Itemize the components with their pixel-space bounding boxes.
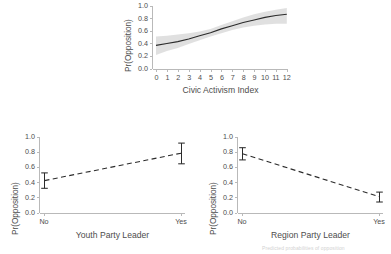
x-axis-title-civic: Civic Activism Index (153, 85, 288, 95)
y-axis-tick (37, 152, 40, 153)
x-axis-tick (276, 69, 277, 72)
y-axis-tick (37, 137, 40, 138)
y-tick-label: 1.0 (132, 2, 148, 10)
x-axis-tick (178, 69, 179, 72)
x-axis-tick (254, 69, 255, 72)
x-tick-label-no: No (33, 218, 55, 226)
y-tick-label: 0.4 (217, 179, 233, 187)
y-axis-tick (150, 69, 153, 70)
y-tick-label: 0.4 (19, 179, 35, 187)
trend-line (45, 153, 182, 181)
x-axis-line (40, 213, 185, 214)
x-axis-tick (232, 69, 233, 72)
y-tick-label: 0.0 (19, 209, 35, 217)
y-tick-label: 0.2 (132, 52, 148, 60)
y-tick-label: 1.0 (217, 133, 233, 141)
x-axis-title-youth: Youth Party Leader (40, 230, 185, 240)
figure-caption: Predicted probabilities of opposition (262, 245, 345, 251)
y-tick-label: 0.6 (19, 163, 35, 171)
x-tick-label-yes: Yes (170, 218, 192, 226)
y-axis-tick (150, 18, 153, 19)
civic-activism-plot (153, 6, 288, 70)
figure-panel-group: Pr(Opposition) 1.0 0.8 0.6 0.4 0.2 0.0 0 (0, 0, 391, 254)
y-axis-tick (235, 137, 238, 138)
y-tick-label: 0.2 (217, 194, 233, 202)
y-axis-tick (235, 197, 238, 198)
y-axis-tick (37, 197, 40, 198)
y-tick-label: 0.8 (132, 15, 148, 23)
x-tick-label-yes: Yes (368, 218, 390, 226)
x-tick-label: 12 (280, 74, 293, 82)
x-axis-tick (181, 213, 182, 216)
x-axis-line (238, 213, 383, 214)
error-bar-yes (376, 192, 383, 202)
region-party-leader-plot (238, 137, 383, 214)
confidence-band (156, 7, 287, 54)
x-axis-tick (167, 69, 168, 72)
x-axis-tick (200, 69, 201, 72)
chart-region-party-leader: Pr(Opposition) 1.0 0.8 0.6 0.4 0.2 0.0 N… (196, 128, 391, 254)
x-axis-tick (287, 69, 288, 72)
x-tick-label-no: No (231, 218, 253, 226)
y-tick-label: 1.0 (19, 133, 35, 141)
y-tick-label: 0.6 (132, 27, 148, 35)
y-tick-label: 0.0 (132, 65, 148, 73)
x-axis-tick (242, 213, 243, 216)
y-tick-label: 0.8 (217, 148, 233, 156)
x-axis-title-region: Region Party Leader (238, 230, 383, 240)
y-axis-tick (235, 213, 238, 214)
y-axis-tick (37, 182, 40, 183)
trend-line (243, 153, 380, 196)
x-axis-tick (243, 69, 244, 72)
y-axis-tick (150, 56, 153, 57)
y-tick-label: 0.6 (217, 163, 233, 171)
x-axis-tick (211, 69, 212, 72)
y-axis-tick (37, 213, 40, 214)
x-axis-tick (221, 69, 222, 72)
y-axis-tick (150, 31, 153, 32)
y-tick-label: 0.4 (132, 40, 148, 48)
y-axis-tick (37, 167, 40, 168)
x-axis-tick (265, 69, 266, 72)
x-axis-tick (156, 69, 157, 72)
y-tick-label: 0.2 (19, 194, 35, 202)
x-axis-tick (379, 213, 380, 216)
y-tick-label: 0.0 (217, 209, 233, 217)
chart-youth-party-leader: Pr(Opposition) 1.0 0.8 0.6 0.4 0.2 0.0 N… (0, 128, 196, 254)
y-axis-tick (235, 167, 238, 168)
chart-civic-activism: Pr(Opposition) 1.0 0.8 0.6 0.4 0.2 0.0 0 (118, 0, 288, 108)
y-axis-tick (150, 43, 153, 44)
x-axis-tick (44, 213, 45, 216)
y-tick-label: 0.8 (19, 148, 35, 156)
x-axis-tick (189, 69, 190, 72)
y-axis-tick (235, 152, 238, 153)
error-bar-no (239, 147, 246, 159)
y-axis-tick (150, 6, 153, 7)
y-axis-tick (235, 182, 238, 183)
youth-party-leader-plot (40, 137, 185, 214)
